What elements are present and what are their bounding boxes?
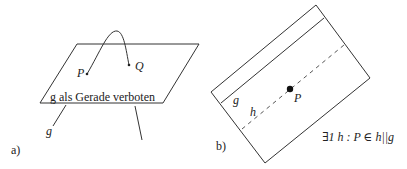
curve-p-to-q [87,31,129,74]
line-g-b [221,18,324,103]
label-g: g [46,124,52,138]
point-p-dot [86,73,89,76]
panel-b: g h P b) ∃1 h : P ∈ h||g [211,5,394,163]
label-h: h [250,105,256,119]
point-q-dot [128,64,131,67]
label-p-b: P [293,91,302,105]
label-q: Q [135,59,144,73]
diagram-canvas: P Q g als Gerade verboten g a) g h P b) … [0,0,407,169]
panel-a-label: a) [11,143,20,157]
plane-caption: g als Gerade verboten [50,90,155,104]
line-vertical [135,106,142,140]
point-p-dot-b [287,86,293,92]
line-g [53,105,66,126]
panel-a: P Q g als Gerade verboten g a) [11,31,199,157]
label-g-b: g [233,93,239,107]
label-p: P [76,66,85,80]
line-h-dashed [242,45,344,129]
panel-b-label: b) [216,139,226,153]
uniqueness-statement: ∃1 h : P ∈ h||g [322,130,394,144]
